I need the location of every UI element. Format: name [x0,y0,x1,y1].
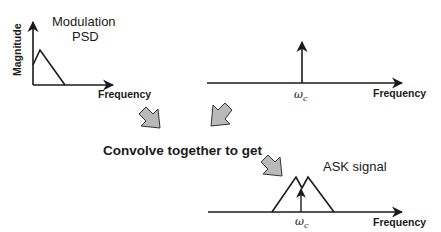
carrier-frequency-label: ωc [294,89,307,103]
psd-title-line2: PSD [72,30,99,43]
y-axis-label: Magnitude [12,24,23,77]
block-arrow-down-right-1 [139,107,160,128]
psd-title-line1: Modulation [52,15,116,28]
ask-plot [208,177,402,212]
convolve-caption: Convolve together to get [103,144,262,158]
omega-subscript: c [304,221,308,230]
omega-symbol: ω [295,215,304,228]
block-arrow-down-right-2 [261,155,282,176]
psd-triangle [33,50,65,85]
x-axis-label: Frequency [373,88,426,99]
carrier-plot [207,42,402,83]
block-arrow-down-left [211,103,232,126]
carrier-frequency-label: ωc [295,216,308,230]
ask-spectrum [272,177,334,212]
diagram-canvas [0,0,441,232]
omega-subscript: c [303,94,307,103]
x-axis-label: Frequency [373,217,426,228]
omega-symbol: ω [294,88,303,101]
ask-title: ASK signal [323,160,387,173]
x-axis-label: Frequency [98,89,151,100]
